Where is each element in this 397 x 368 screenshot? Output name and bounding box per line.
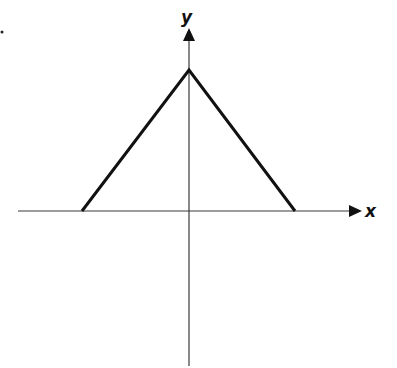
x-axis-arrow-icon bbox=[349, 205, 362, 217]
y-axis-arrow-icon bbox=[183, 28, 195, 41]
stray-mark bbox=[1, 31, 4, 34]
y-axis-label: y bbox=[181, 7, 193, 27]
triangle-function-diagram: x y bbox=[0, 0, 397, 368]
x-axis-label: x bbox=[364, 201, 377, 221]
